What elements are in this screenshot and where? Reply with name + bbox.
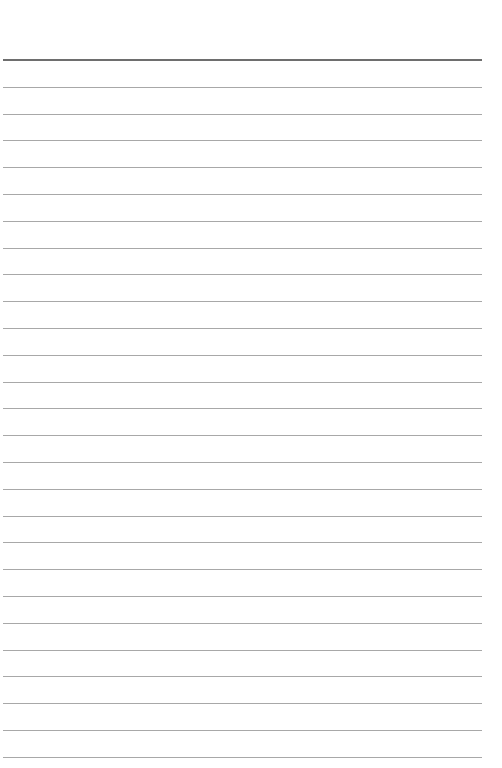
ruled-line — [3, 676, 482, 677]
ruled-line — [3, 435, 482, 436]
ruled-line — [3, 462, 482, 463]
ruled-line — [3, 301, 482, 302]
ruled-line — [3, 623, 482, 624]
ruled-line — [3, 542, 482, 543]
ruled-line — [3, 382, 482, 383]
ruled-line — [3, 274, 482, 275]
ruled-line — [3, 328, 482, 329]
ruled-line — [3, 489, 482, 490]
ruled-line — [3, 355, 482, 356]
ruled-line — [3, 516, 482, 517]
ruled-line — [3, 730, 482, 731]
ruled-line — [3, 87, 482, 88]
lined-paper-page — [0, 0, 502, 768]
ruled-line — [3, 194, 482, 195]
ruled-line — [3, 596, 482, 597]
ruled-line — [3, 703, 482, 704]
ruled-line — [3, 221, 482, 222]
ruled-line — [3, 757, 482, 758]
ruled-line — [3, 167, 482, 168]
ruled-line — [3, 650, 482, 651]
ruled-line — [3, 248, 482, 249]
ruled-line — [3, 140, 482, 141]
ruled-line — [3, 569, 482, 570]
ruled-line — [3, 114, 482, 115]
header-rule — [3, 59, 482, 61]
ruled-line — [3, 408, 482, 409]
